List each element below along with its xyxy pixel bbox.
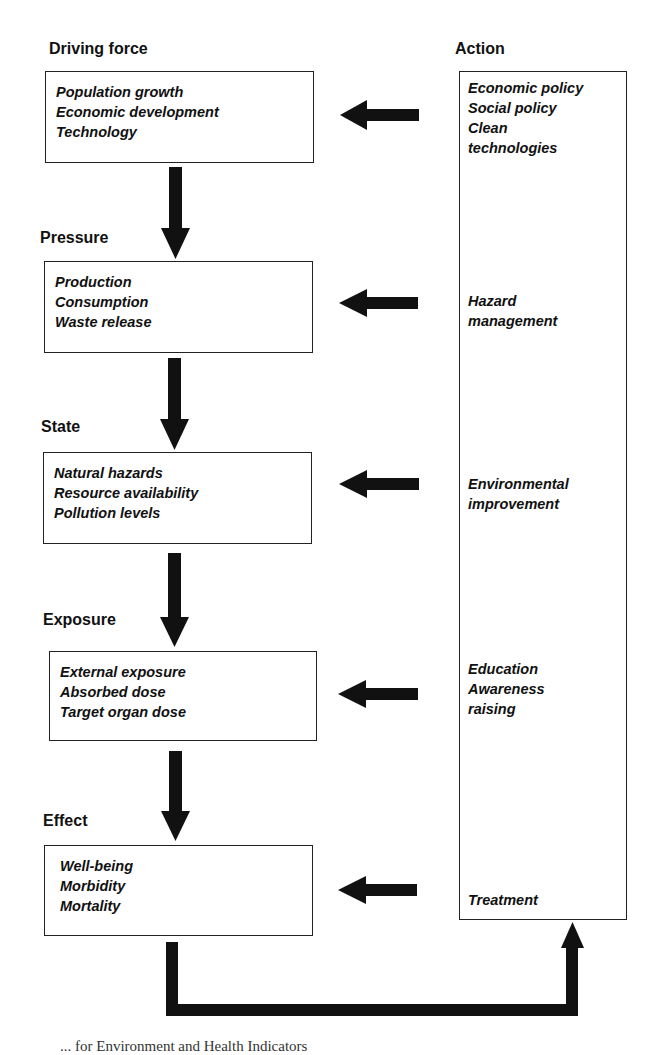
arrow-down-icon [160,358,189,450]
arrow-left-icon [338,876,417,904]
arrow-left-icon [339,470,419,498]
arrow-down-icon [160,553,189,647]
arrow-left-icon [338,680,418,708]
feedback-loop-arrow-icon [166,922,584,1016]
figure-caption: ... for Environment and Health Indicator… [60,1038,307,1055]
arrow-left-icon [340,100,419,130]
arrow-left-icon [339,289,418,317]
arrow-down-icon [161,167,190,259]
arrow-down-icon [161,751,190,841]
